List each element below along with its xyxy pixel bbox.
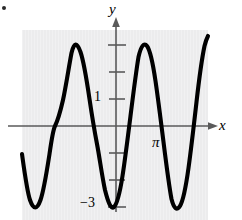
y-axis-label: y (109, 2, 116, 17)
y-tick-label-neg3: −3 (80, 196, 95, 210)
chart-svg (0, 0, 242, 220)
y-axis-arrow-icon (112, 17, 120, 27)
x-axis-label: x (219, 118, 226, 133)
figure-container: y x 1 −3 π (0, 0, 242, 220)
wave-curve (22, 36, 208, 209)
y-tick-label-1: 1 (94, 90, 101, 104)
x-axis-arrow-icon (208, 122, 218, 130)
x-tick-label-pi: π (152, 135, 160, 150)
